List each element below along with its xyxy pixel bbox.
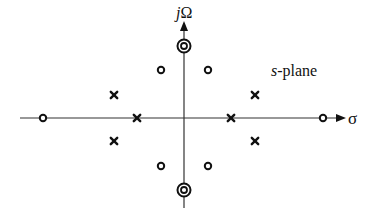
zero-circle-icon <box>40 115 46 121</box>
pole-x-icon <box>252 92 258 98</box>
s-plane-title: s-plane <box>271 62 317 80</box>
jomega-axis-arrow-icon <box>180 21 188 31</box>
zero-circle-icon <box>205 67 211 73</box>
zero-circle-icon <box>320 115 326 121</box>
zero-circle-icon <box>205 163 211 169</box>
double-zero-icon <box>178 184 191 197</box>
zero-circle-icon <box>158 67 164 73</box>
sigma-axis-arrow-icon <box>336 114 346 122</box>
pole-x-icon <box>111 92 117 98</box>
s-plane-diagram: σ jΩ s-plane <box>0 0 374 219</box>
jomega-label: jΩ <box>174 4 192 22</box>
pole-zero-plot: σ jΩ s-plane <box>0 0 374 219</box>
zero-circle-icon <box>158 163 164 169</box>
sigma-label: σ <box>348 109 357 128</box>
pole-x-icon <box>252 138 258 144</box>
double-zero-icon <box>178 40 191 53</box>
pole-x-icon <box>111 138 117 144</box>
